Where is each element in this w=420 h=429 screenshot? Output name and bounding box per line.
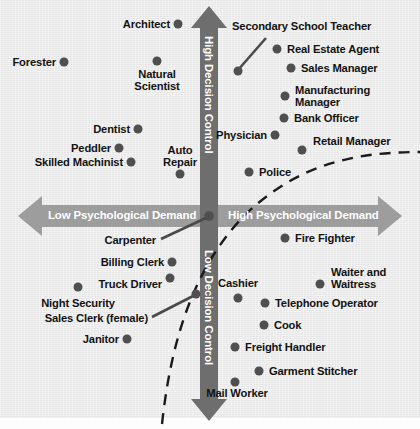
data-point[interactable] [245,168,254,177]
data-point[interactable] [153,57,162,66]
data-point[interactable] [260,321,269,330]
data-point[interactable] [281,92,290,101]
data-point[interactable] [127,158,136,167]
data-point[interactable] [234,67,243,76]
point-label: Bank Officer [294,112,359,124]
point-label: Physician [216,129,267,141]
point-label: Janitor [83,333,119,345]
point-label: Freight Handler [245,341,325,353]
data-point[interactable] [174,20,183,29]
data-point[interactable] [115,144,124,153]
axis-label-low-demand: Low Psychological Demand [48,209,196,221]
point-label: Retail Manager [313,135,390,147]
point-label: Fire Fighter [295,232,355,244]
point-label: Peddler [71,142,111,154]
data-point[interactable] [60,58,69,67]
leader-line [238,38,266,70]
data-point[interactable] [176,170,185,179]
data-point[interactable] [234,294,243,303]
axis-label-high-control: High Decision Control [203,36,215,154]
point-label: Mail Worker [206,387,268,399]
data-point[interactable] [316,280,325,289]
point-label: Garment Stitcher [269,365,357,377]
data-point[interactable] [168,258,177,267]
axis-label-low-control: Low Decision Control [203,250,215,365]
demand-control-chart: Low Psychological Demand High Psychologi… [0,0,420,429]
point-label: Dentist [93,123,130,135]
data-point[interactable] [123,335,132,344]
point-label: Waiter andWaitress [331,266,386,291]
data-point[interactable] [231,378,240,387]
point-label: Sales Manager [301,62,377,74]
point-label: Truck Driver [99,278,163,290]
point-label: NaturalScientist [134,68,179,93]
data-point[interactable] [261,299,270,308]
point-label: ManufacturingManager [295,84,370,109]
data-point[interactable] [192,290,201,299]
point-label: Cashier [218,277,258,289]
point-label: Architect [123,18,170,30]
data-point[interactable] [74,283,83,292]
data-point[interactable] [281,234,290,243]
point-label: Night Security [41,297,115,309]
point-label: Telephone Operator [275,297,378,309]
point-label: Secondary School Teacher [232,20,371,32]
data-point[interactable] [231,343,240,352]
point-label: Police [259,166,291,178]
point-label: Sales Clerk (female) [45,312,148,324]
data-point[interactable] [271,131,280,140]
data-point[interactable] [134,125,143,134]
data-point[interactable] [273,45,282,54]
data-point[interactable] [205,212,214,221]
point-label: Forester [12,56,56,68]
point-label: Cook [274,319,301,331]
axis-label-high-demand: High Psychological Demand [228,209,379,221]
data-point[interactable] [287,64,296,73]
data-point[interactable] [298,146,307,155]
point-label: Real Estate Agent [287,43,379,55]
data-point[interactable] [166,274,175,283]
point-label: AutoRepair [163,144,197,169]
point-label: Carpenter [105,234,157,246]
data-point[interactable] [280,114,289,123]
data-point[interactable] [255,367,264,376]
point-label: Billing Clerk [101,256,164,268]
point-label: Skilled Machinist [35,156,123,168]
